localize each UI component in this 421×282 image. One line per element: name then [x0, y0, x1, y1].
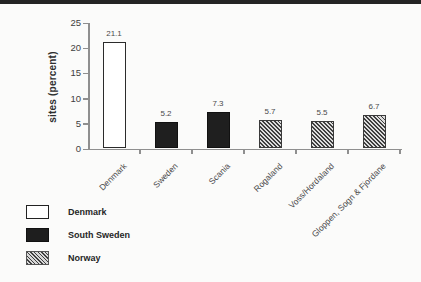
- legend-item: Norway: [26, 250, 130, 265]
- y-tick-label: 0: [55, 143, 81, 154]
- y-tick-label: 20: [55, 42, 81, 53]
- y-tick: [83, 149, 88, 151]
- y-tick: [83, 73, 88, 75]
- y-axis-title: sites (percent): [47, 51, 58, 122]
- y-tick: [83, 98, 88, 100]
- bar-value-label: 5.7: [248, 107, 292, 116]
- bar-sweden: [155, 122, 178, 148]
- x-tick: [243, 150, 245, 154]
- legend-item: Denmark: [26, 204, 130, 219]
- legend-swatch-denmark: [26, 205, 49, 219]
- x-tick: [295, 150, 297, 154]
- x-tick: [139, 150, 141, 154]
- y-tick-label: 10: [55, 93, 81, 104]
- x-axis-label: Sweden: [151, 161, 180, 190]
- y-tick-label: 15: [55, 67, 81, 78]
- y-tick: [83, 23, 88, 25]
- bar-value-label: 5.2: [144, 109, 188, 118]
- x-axis-label: Rogaland: [251, 161, 284, 194]
- bar-rogaland: [259, 120, 282, 149]
- x-axis-label: Denmark: [97, 161, 128, 192]
- x-axis-label: Scania: [207, 161, 232, 186]
- y-tick: [83, 48, 88, 50]
- y-axis-line: [88, 23, 90, 151]
- bar-value-label: 6.7: [352, 102, 396, 111]
- bar-scania: [207, 112, 230, 149]
- bar-value-label: 21.1: [92, 29, 136, 38]
- x-tick: [399, 150, 401, 154]
- chart-canvas: sites (percent) DenmarkSouth SwedenNorwa…: [0, 0, 421, 282]
- bar-voss-hordaland: [311, 121, 334, 149]
- legend-swatch-south-sweden: [26, 228, 49, 242]
- y-tick-label: 25: [55, 17, 81, 28]
- x-tick: [347, 150, 349, 154]
- legend-item: South Sweden: [26, 227, 130, 242]
- bar-value-label: 5.5: [300, 108, 344, 117]
- legend-label: Denmark: [68, 207, 107, 217]
- legend-label: Norway: [68, 253, 101, 263]
- y-tick: [83, 123, 88, 125]
- x-tick: [191, 150, 193, 154]
- legend: DenmarkSouth SwedenNorway: [26, 204, 130, 273]
- x-axis-line: [88, 149, 402, 151]
- x-axis-label: Voss/Hordaland: [287, 161, 337, 211]
- bar-denmark: [103, 42, 126, 148]
- legend-label: South Sweden: [68, 230, 130, 240]
- y-tick-label: 5: [55, 118, 81, 129]
- bar-gloppen-sogn-fjordane: [363, 115, 386, 149]
- legend-swatch-norway: [26, 251, 49, 265]
- bar-value-label: 7.3: [196, 99, 240, 108]
- top-border-band: [0, 0, 421, 4]
